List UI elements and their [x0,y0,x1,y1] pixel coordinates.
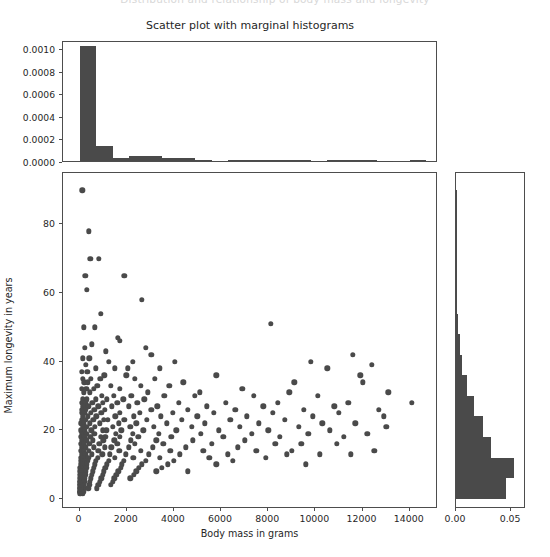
histogram-bar [456,437,491,458]
scatter-point [183,445,188,450]
scatter-point [131,455,136,460]
scatter-point [96,256,101,261]
scatter-point [98,311,103,316]
scatter-point [240,386,245,391]
scatter-point [273,441,278,446]
scatter-point [202,421,207,426]
scatter-point [301,407,306,412]
scatter-y-tick-label: 20 [0,424,55,435]
scatter-point [97,421,102,426]
histogram-bar [410,160,427,161]
scatter-point [263,455,268,460]
scatter-point [122,417,127,422]
scatter-point [216,427,221,432]
scatter-point [116,421,121,426]
scatter-point [172,359,177,364]
scatter-point [225,451,230,456]
scatter-point [185,407,190,412]
scatter-point [140,427,145,432]
y-axis-label: Maximum longevity in years [3,278,14,414]
scatter-point [192,393,197,398]
histogram-bar [261,160,278,161]
scatter-point [109,403,114,408]
scatter-point [336,410,341,415]
scatter-x-tick-mark [362,508,363,511]
scatter-point [209,441,214,446]
scatter-point [112,455,117,460]
scatter-point [111,393,116,398]
scatter-point [214,462,219,467]
scatter-point [113,414,118,419]
scatter-point [341,434,346,439]
scatter-point [153,469,158,474]
scatter-point [306,431,311,436]
scatter-point [161,441,166,446]
scatter-x-tick-label: 2000 [114,513,138,524]
scatter-point [81,325,86,330]
scatter-point [156,431,161,436]
scatter-point [98,376,103,381]
scatter-point [357,373,362,378]
top-histogram-y-tick-label: 0.0008 [0,66,55,77]
scatter-point [287,390,292,395]
scatter-point [82,345,87,350]
histogram-bar [456,458,514,479]
scatter-point [115,400,120,405]
scatter-y-tick-mark [59,361,62,362]
scatter-point [170,410,175,415]
scatter-point [87,390,92,395]
histogram-bar [113,158,130,162]
scatter-point [125,366,130,371]
scatter-point [108,445,113,450]
scatter-point [132,441,137,446]
scatter-point [100,400,105,405]
scatter-point [122,273,127,278]
scatter-point [376,407,381,412]
scatter-point [350,352,355,357]
top-histogram-y-tick-mark [59,72,62,73]
histogram-bar [327,160,344,161]
scatter-point [386,390,391,395]
histogram-bar [456,334,460,355]
scatter-point [124,373,129,378]
scatter-point [254,448,259,453]
histogram-bar [195,160,212,161]
scatter-point [117,434,122,439]
scatter-point [211,410,216,415]
scatter-point [150,445,155,450]
figure-canvas: Distribution and relationship of body ma… [0,0,550,557]
scatter-point [360,379,365,384]
scatter-point [166,383,171,388]
histogram-bar [456,355,462,376]
scatter-point [99,451,104,456]
scatter-point [117,386,122,391]
scatter-point [132,376,137,381]
scatter-point [106,359,111,364]
scatter-point [136,434,141,439]
scatter-point [86,355,91,360]
top-marginal-histogram [62,41,437,162]
scatter-y-tick-mark [59,292,62,293]
scatter-point [146,451,151,456]
scatter-point [372,448,377,453]
scatter-point [133,421,138,426]
histogram-bar [228,160,245,161]
scatter-point [177,451,182,456]
scatter-point [174,427,179,432]
scatter-point [92,325,97,330]
scatter-y-tick-label: 0 [0,492,55,503]
histogram-bar [179,158,196,161]
scatter-point [198,431,203,436]
scatter-point [123,451,128,456]
scatter-point [282,417,287,422]
scatter-y-tick-mark [59,223,62,224]
scatter-x-tick-mark [173,508,174,511]
scatter-point [207,455,212,460]
scatter-point [145,390,150,395]
scatter-point [179,417,184,422]
scatter-point [171,458,176,463]
scatter-point [83,362,88,367]
scatter-x-tick-mark [79,508,80,511]
scatter-point [251,393,256,398]
scatter-point [232,407,237,412]
